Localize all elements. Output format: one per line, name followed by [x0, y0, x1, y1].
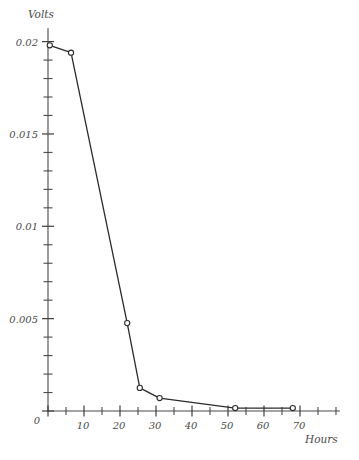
x-tick-label: 70 — [293, 420, 306, 431]
x-tick-label: 20 — [112, 420, 126, 431]
data-point-marker — [125, 320, 130, 325]
data-series-line — [50, 45, 293, 408]
x-axis — [48, 406, 340, 417]
y-axis — [42, 29, 54, 411]
x-tick-label: 50 — [221, 420, 234, 431]
x-axis-tick-labels: 10203040506070 — [77, 420, 306, 431]
data-point-marker — [47, 43, 52, 48]
y-tick-label: 0 — [34, 415, 41, 426]
y-tick-label: 0.005 — [9, 314, 38, 325]
x-tick-label: 60 — [257, 420, 270, 431]
data-point-marker — [137, 385, 142, 390]
y-axis-tick-labels: 00.0050.010.0150.02 — [9, 37, 40, 426]
line-chart: 00.0050.010.0150.02 10203040506070 Volts… — [0, 0, 359, 460]
data-point-markers — [47, 43, 295, 411]
chart-container: 00.0050.010.0150.02 10203040506070 Volts… — [0, 0, 359, 460]
x-tick-label: 30 — [149, 420, 162, 431]
y-axis-title: Volts — [28, 8, 55, 20]
data-point-marker — [290, 405, 295, 410]
data-point-marker — [157, 395, 162, 400]
data-point-marker — [233, 405, 238, 410]
y-tick-label: 0.01 — [16, 221, 38, 232]
y-tick-label: 0.015 — [9, 129, 38, 140]
data-point-marker — [68, 50, 73, 55]
x-axis-title: Hours — [304, 433, 338, 445]
x-tick-label: 40 — [184, 420, 198, 431]
x-tick-label: 10 — [77, 420, 90, 431]
y-tick-label: 0.02 — [16, 37, 38, 48]
